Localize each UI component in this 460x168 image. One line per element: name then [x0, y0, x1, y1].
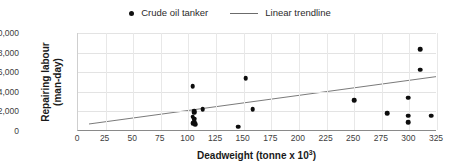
gridline-vertical [271, 33, 272, 130]
gridline-vertical [327, 33, 328, 130]
x-axis-title-tail: ) [313, 150, 316, 161]
x-axis-title: Deadweight (tonne x 103) [77, 149, 436, 161]
chart-legend: Crude oil tanker Linear trendline [0, 4, 460, 22]
x-axis-tick-label: 50 [127, 134, 136, 143]
gridline-vertical [382, 33, 383, 130]
x-axis-tick-label: 200 [291, 134, 305, 143]
gridline-vertical [354, 33, 355, 130]
y-axis-tick-label: 2,000 [0, 107, 19, 116]
gridline-vertical [133, 33, 134, 130]
line-marker-icon [230, 13, 258, 14]
x-axis-tick-label: 0 [75, 134, 80, 143]
scatter-chart-figure: Crude oil tanker Linear trendline Repair… [0, 0, 460, 168]
linear-trendline [89, 77, 436, 124]
data-point [385, 111, 390, 116]
legend-item-linear-trendline[interactable]: Linear trendline [230, 8, 331, 18]
data-point [429, 114, 434, 119]
x-axis-title-base: Deadweight (tonne x 10 [197, 150, 309, 161]
gridline-vertical [299, 33, 300, 130]
y-axis-title-line1: Repairing labour [40, 42, 52, 121]
data-point [244, 76, 249, 81]
data-point [236, 124, 241, 129]
data-point [250, 107, 255, 112]
data-point [406, 120, 411, 125]
x-axis-tick-label: 275 [374, 134, 388, 143]
y-axis-tick-label: 0 [14, 127, 19, 136]
x-axis-tick-label: 75 [155, 134, 164, 143]
x-axis-tick-label: 175 [263, 134, 277, 143]
plot-area [77, 33, 436, 131]
y-axis-tick-label: 8,000 [0, 48, 19, 57]
x-axis-tick-label: 300 [401, 134, 415, 143]
data-point [191, 84, 196, 89]
data-point [406, 114, 411, 119]
x-axis-tick-label: 325 [429, 134, 443, 143]
legend-label-crude-oil-tanker: Crude oil tanker [141, 8, 208, 18]
data-point [418, 47, 423, 52]
gridline-vertical [437, 33, 438, 130]
y-axis-tick-label: 10,000 [0, 29, 19, 38]
x-axis-tick-label: 150 [236, 134, 250, 143]
y-axis-tick-label: 6,000 [0, 68, 19, 77]
dot-marker-icon [129, 11, 134, 16]
gridline-vertical [216, 33, 217, 130]
x-axis-tick-label: 125 [208, 134, 222, 143]
x-axis-tick-label: 250 [346, 134, 360, 143]
x-axis-tick-label: 25 [100, 134, 109, 143]
y-axis-tick-label: 4,000 [0, 88, 19, 97]
x-axis-tick-label: 100 [180, 134, 194, 143]
legend-item-crude-oil-tanker[interactable]: Crude oil tanker [129, 8, 208, 18]
gridline-vertical [106, 33, 107, 130]
data-point [352, 98, 357, 103]
gridline-vertical [161, 33, 162, 130]
gridline-vertical [244, 33, 245, 130]
legend-label-linear-trendline: Linear trendline [265, 8, 331, 18]
data-point [201, 107, 206, 112]
gridline-vertical [188, 33, 189, 130]
data-point [406, 95, 411, 100]
data-point [418, 67, 423, 72]
y-axis-title-line2: (man-day) [52, 42, 64, 121]
x-axis-tick-label: 225 [318, 134, 332, 143]
data-point [193, 122, 198, 127]
